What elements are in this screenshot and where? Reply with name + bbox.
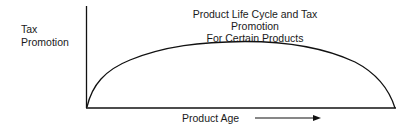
life-cycle-curve <box>87 42 395 109</box>
right-arrow-icon <box>255 115 321 121</box>
diagram-canvas <box>0 0 414 132</box>
